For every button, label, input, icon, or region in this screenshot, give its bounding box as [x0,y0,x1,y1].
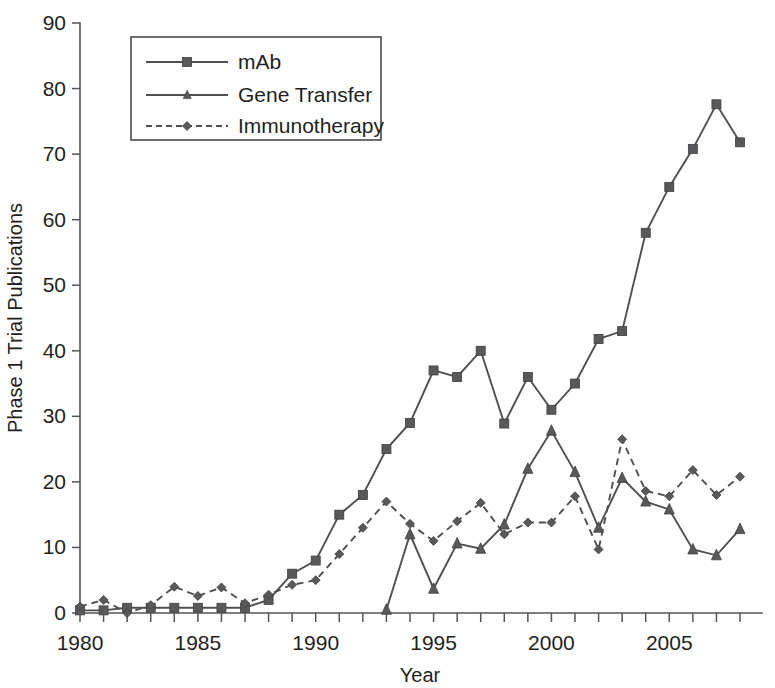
data-point [617,472,627,483]
data-point [712,100,721,109]
x-axis-title: Year [400,664,441,686]
data-point [99,606,108,615]
data-point [546,425,556,436]
y-tick-label: 50 [43,273,66,296]
data-point [547,405,556,414]
x-tick-label: 1980 [57,631,104,654]
y-tick-label: 80 [43,77,66,100]
data-point [406,418,415,427]
legend-marker-square-icon [183,58,192,67]
data-point [594,545,603,554]
y-tick-label: 40 [43,339,66,362]
chart-figure: Phase 1 Trial Publications Year 01020304… [0,0,775,688]
x-tick-label: 2000 [528,631,575,654]
data-point [99,595,108,604]
y-tick-label: 30 [43,404,66,427]
legend-label: Gene Transfer [238,83,372,106]
data-point [453,373,462,382]
data-point [499,519,509,530]
data-point [688,144,697,153]
data-point [288,580,297,589]
data-point [618,327,627,336]
data-point [476,346,485,355]
series-immunotherapy [76,435,745,618]
data-point [358,491,367,500]
data-point [452,538,462,549]
x-tick-label: 1990 [292,631,339,654]
data-point [735,523,745,534]
data-point [736,472,745,481]
y-tick-label: 10 [43,535,66,558]
data-point [641,487,650,496]
data-point [594,334,603,343]
data-point [571,379,580,388]
data-point [405,528,415,539]
x-axis-tick-labels: 198019851990199520002005 [57,631,693,654]
series-gene-transfer [381,425,745,614]
y-tick-label: 90 [43,11,66,34]
y-tick-label: 60 [43,208,66,231]
data-point [665,182,674,191]
data-point [217,603,226,612]
y-axis-title: Phase 1 Trial Publications [4,203,26,433]
data-point [429,583,439,594]
data-point [736,138,745,147]
data-point [500,419,509,428]
data-point [641,228,650,237]
data-point [288,569,297,578]
data-point [311,576,320,585]
x-tick-label: 1995 [410,631,457,654]
legend-label: mAb [238,50,281,73]
y-axis-ticks: 0102030405060708090 [43,11,80,624]
data-point [193,591,202,600]
data-point [382,445,391,454]
data-point [523,518,532,527]
series-layer [76,100,746,618]
y-tick-label: 0 [54,601,66,624]
data-point [571,492,580,501]
y-tick-label: 20 [43,470,66,493]
data-point [170,603,179,612]
data-point [523,373,532,382]
data-point [381,604,391,615]
x-tick-label: 1985 [174,631,221,654]
data-point [429,366,438,375]
data-point [335,510,344,519]
x-axis-ticks [80,613,740,622]
line-chart: Phase 1 Trial Publications Year 01020304… [0,0,775,688]
x-tick-label: 2005 [646,631,693,654]
data-point [618,435,627,444]
chart-legend: mAbGene TransferImmunotherapy [131,37,384,140]
y-tick-label: 70 [43,142,66,165]
data-point [311,556,320,565]
series-line [386,431,740,610]
data-point [193,603,202,612]
legend-label: Immunotherapy [238,114,384,137]
